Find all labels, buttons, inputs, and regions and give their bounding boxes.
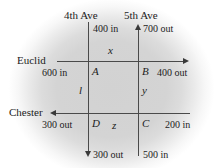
- street-label-euclid: Euclid: [17, 55, 46, 66]
- street-line-euclid: [57, 61, 184, 62]
- avenue-label-4th: 4th Ave: [64, 10, 98, 21]
- variable-label-y: y: [142, 85, 147, 96]
- node-label-b: B: [142, 66, 149, 77]
- flow-label-5th-ave-bottom: 500 in: [143, 150, 168, 160]
- flow-label-chester-east: 200 in: [165, 120, 190, 130]
- variable-label-z: z: [112, 120, 116, 131]
- flow-label-5th-ave-top: 700 out: [143, 24, 173, 34]
- arrow-left-icon-chester: [50, 110, 56, 116]
- traffic-flow-diagram: 4th Ave 5th Ave 400 in 700 out Euclid 60…: [0, 0, 214, 168]
- arrow-right-icon-euclid: [183, 58, 189, 64]
- street-line-chester: [56, 113, 190, 114]
- variable-label-l: l: [79, 85, 82, 96]
- variable-label-x: x: [108, 45, 113, 56]
- street-label-chester: Chester: [9, 107, 43, 118]
- node-label-d: D: [92, 118, 100, 129]
- avenue-label-5th: 5th Ave: [124, 10, 158, 21]
- node-label-c: C: [142, 118, 149, 129]
- flow-label-chester-west: 300 out: [42, 120, 72, 130]
- flow-label-euclid-east: 400 out: [157, 68, 187, 78]
- flow-label-4th-ave-bottom: 300 out: [93, 150, 123, 160]
- node-label-a: A: [92, 66, 99, 77]
- flow-label-euclid-west: 600 in: [42, 68, 67, 78]
- flow-label-4th-ave-top: 400 in: [93, 24, 118, 34]
- street-line-5th-ave: [138, 30, 139, 156]
- arrow-up-icon-5th-ave: [135, 24, 141, 30]
- street-line-4th-ave: [88, 22, 89, 152]
- arrow-down-icon-4th-ave: [85, 151, 91, 157]
